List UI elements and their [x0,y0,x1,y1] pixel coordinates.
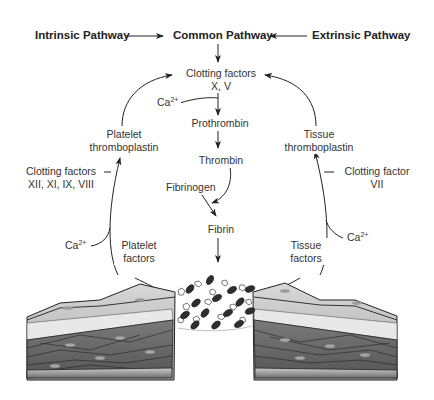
calcium-base: Ca [157,96,170,108]
vessel-illustration [27,274,397,380]
node-text-line2: VII [339,178,415,191]
node-text-line1: Clotting factors [183,67,259,80]
node-text-line1: Clotting factors [21,165,101,178]
node-clotting-factor-vii: Clotting factor VII [336,164,418,191]
node-text-line2: X, V [183,80,259,93]
calcium-base: Ca [65,239,78,251]
node-clotting-factors-xii-xi-ix-viii: Clotting factors XII, XI, IX, VIII [18,164,104,191]
node-platelet-factors: Platelet factors [114,238,164,265]
node-text-line1: Platelet [85,128,163,141]
common-pathway-label: Common Pathway [173,29,273,41]
node-text-line2: thromboplastin [85,141,163,154]
node-platelet-thromboplastin: Platelet thromboplastin [82,127,166,154]
node-text-line1: Platelet [117,239,161,252]
node-fibrinogen: Fibrinogen [163,180,219,195]
node-text-line1: Tissue [286,239,326,252]
node-clotting-factors-x-v: Clotting factors X, V [180,66,262,93]
node-tissue-factors: Tissue factors [283,238,329,265]
diagram-canvas [0,0,434,400]
node-prothrombin: Prothrombin [186,116,254,131]
node-text-line1: Tissue [280,128,358,141]
intrinsic-pathway-label: Intrinsic Pathway [35,29,130,41]
node-text-line1: Clotting factor [339,165,415,178]
node-text-line2: XII, XI, IX, VIII [21,178,101,191]
node-thrombin: Thrombin [193,153,249,168]
calcium-label-right: Ca2+ [344,230,371,245]
node-text-line2: factors [117,252,161,265]
node-tissue-thromboplastin: Tissue thromboplastin [277,127,361,154]
node-fibrin: Fibrin [201,222,241,237]
calcium-charge: 2+ [78,239,86,246]
calcium-label-left: Ca2+ [62,238,89,253]
clot-cells [178,274,256,331]
calcium-label-center: Ca2+ [154,95,181,110]
extrinsic-pathway-label: Extrinsic Pathway [312,29,410,41]
node-text-line2: thromboplastin [280,141,358,154]
calcium-charge: 2+ [360,231,368,238]
node-text-line2: factors [286,252,326,265]
calcium-charge: 2+ [170,96,178,103]
calcium-base: Ca [347,231,360,243]
